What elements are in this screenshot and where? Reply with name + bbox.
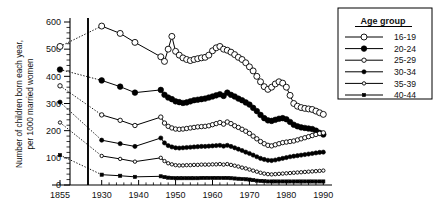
data-point-marker — [233, 177, 236, 180]
y-tick-label: 0 — [56, 180, 61, 190]
data-point-marker — [285, 172, 288, 175]
data-point-marker — [255, 179, 258, 182]
data-point-marker — [222, 176, 225, 179]
data-point-marker — [292, 171, 295, 174]
legend-item-label: 40-44 — [394, 90, 416, 100]
data-point-marker — [159, 175, 162, 178]
data-point-marker — [303, 170, 306, 173]
y-axis-label-line1: Number of children born each year, — [15, 40, 24, 168]
data-point-marker — [58, 154, 61, 157]
chart-legend[interactable]: Age group16-1920-2425-2930-3435-3940-44 — [338, 8, 432, 100]
anchor-connector — [60, 102, 102, 140]
data-point-marker — [132, 90, 138, 96]
data-point-marker — [226, 162, 229, 165]
data-point-marker — [320, 111, 326, 117]
data-point-marker — [133, 144, 137, 148]
data-point-marker — [318, 180, 321, 183]
data-point-marker — [99, 23, 105, 29]
x-tick-label: 1950 — [166, 190, 186, 200]
data-point-marker — [196, 163, 199, 166]
data-point-marker — [58, 84, 62, 88]
data-point-marker — [167, 176, 170, 179]
data-point-marker — [170, 163, 173, 166]
anchor-connector — [60, 155, 102, 175]
data-point-marker — [226, 176, 229, 179]
anchor-connector — [60, 26, 102, 46]
data-point-marker — [118, 157, 121, 160]
data-point-marker — [314, 169, 317, 172]
data-point-marker — [240, 177, 243, 180]
data-point-marker — [200, 176, 203, 179]
data-point-marker — [211, 176, 214, 179]
data-point-marker — [244, 178, 247, 181]
data-point-marker — [244, 167, 247, 170]
data-point-marker — [292, 180, 295, 183]
data-point-marker — [222, 163, 225, 166]
legend-item-label: 35-39 — [394, 79, 416, 89]
data-point-marker — [362, 82, 365, 85]
data-series-group — [57, 23, 326, 183]
data-point-marker — [99, 78, 105, 84]
data-point-marker — [192, 163, 195, 166]
data-point-marker — [362, 93, 365, 96]
data-point-marker — [58, 100, 62, 104]
data-point-marker — [300, 180, 303, 183]
data-point-marker — [161, 58, 167, 64]
data-point-marker — [165, 46, 171, 52]
data-point-marker — [178, 177, 181, 180]
data-point-marker — [270, 180, 273, 183]
data-point-marker — [259, 179, 262, 182]
data-point-marker — [196, 177, 199, 180]
data-point-marker — [178, 164, 181, 167]
data-point-marker — [288, 180, 291, 183]
data-point-marker — [100, 138, 104, 142]
data-point-marker — [322, 180, 325, 183]
data-point-marker — [229, 163, 232, 166]
data-point-marker — [218, 176, 221, 179]
anchor-connector — [60, 70, 102, 81]
data-point-marker — [362, 58, 366, 62]
data-point-marker — [169, 33, 175, 39]
data-point-marker — [118, 142, 122, 146]
data-point-marker — [58, 121, 61, 124]
data-point-marker — [163, 176, 166, 179]
data-point-marker — [237, 177, 240, 180]
x-tick-label: 1960 — [202, 190, 222, 200]
data-point-marker — [252, 179, 255, 182]
data-point-marker — [266, 172, 269, 175]
data-point-marker — [277, 180, 280, 183]
data-point-marker — [163, 159, 166, 162]
data-point-marker — [361, 46, 367, 52]
legend-title: Age group — [361, 16, 406, 26]
data-point-marker — [181, 164, 184, 167]
data-point-marker — [266, 180, 269, 183]
data-point-marker — [318, 169, 321, 172]
data-point-marker — [314, 180, 317, 183]
legend-item-label: 20-24 — [394, 44, 416, 54]
data-point-marker — [321, 131, 325, 135]
data-point-marker — [158, 87, 164, 93]
data-point-marker — [362, 70, 366, 74]
data-point-marker — [100, 154, 103, 157]
data-point-marker — [322, 169, 325, 172]
data-point-marker — [263, 172, 266, 175]
data-point-marker — [281, 172, 284, 175]
data-point-marker — [214, 163, 217, 166]
data-point-marker — [203, 163, 206, 166]
y-tick-label: 400 — [46, 72, 61, 82]
data-point-marker — [159, 115, 163, 119]
data-point-marker — [259, 171, 262, 174]
data-point-marker — [263, 180, 266, 183]
x-tick-label: 1990 — [313, 190, 333, 200]
data-point-marker — [133, 160, 136, 163]
y-tick-label: 200 — [46, 126, 61, 136]
data-point-marker — [287, 92, 293, 98]
x-tick-label: 1970 — [239, 190, 259, 200]
x-tick-label: 1930 — [92, 190, 112, 200]
anchor-connector — [60, 86, 102, 115]
data-point-marker — [189, 177, 192, 180]
data-point-marker — [189, 163, 192, 166]
data-point-marker — [307, 170, 310, 173]
data-point-marker — [174, 177, 177, 180]
data-point-marker — [237, 165, 240, 168]
